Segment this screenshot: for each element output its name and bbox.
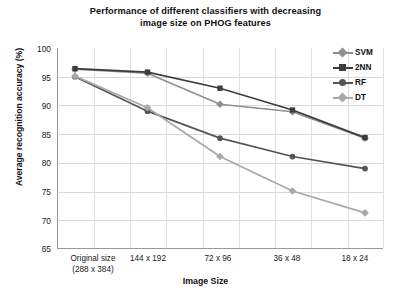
gridline-v-2 xyxy=(130,48,131,248)
legend-item-svm[interactable]: SVM xyxy=(333,45,395,60)
legend-label-svm: SVM xyxy=(355,48,373,57)
gridline-v-3 xyxy=(166,48,167,248)
gridline-v-6 xyxy=(275,48,276,248)
legend-item-2nn[interactable]: 2NN xyxy=(333,60,395,75)
x-tick-1: 144 x 192 xyxy=(110,254,186,265)
gridline-80 xyxy=(58,163,383,164)
gridline-75 xyxy=(58,192,383,193)
chart-title-line-1: Performance of different classifiers wit… xyxy=(0,5,411,17)
legend-marker-2nn-icon xyxy=(333,62,353,73)
y-tick-95: 95 xyxy=(21,73,51,83)
legend-item-dt[interactable]: DT xyxy=(333,90,395,105)
legend-marker-rf-icon xyxy=(333,77,353,88)
legend-marker-dt-icon xyxy=(333,92,353,103)
gridline-v-1 xyxy=(94,48,95,248)
x-tick-2: 72 x 96 xyxy=(180,254,256,265)
x-tick-0-line-2: (288 x 384) xyxy=(55,265,131,276)
gridline-v-5 xyxy=(239,48,240,248)
gridline-v-7 xyxy=(311,48,312,248)
x-tick-3: 36 x 48 xyxy=(249,254,325,265)
y-tick-90: 90 xyxy=(21,101,51,111)
legend-marker-svm-icon xyxy=(333,47,353,58)
gridline-85 xyxy=(58,134,383,135)
chart-container: Performance of different classifiers wit… xyxy=(0,0,411,305)
chart-title-line-2: image size on PHOG features xyxy=(0,17,411,29)
chart-title: Performance of different classifiers wit… xyxy=(0,5,411,29)
y-tick-80: 80 xyxy=(21,158,51,168)
y-tick-75: 75 xyxy=(21,187,51,197)
legend-label-2nn: 2NN xyxy=(355,63,371,72)
legend-label-dt: DT xyxy=(355,93,366,102)
gridline-v-4 xyxy=(203,48,204,248)
y-tick-65: 65 xyxy=(21,244,51,254)
chart-legend: SVM 2NN RF DT xyxy=(333,45,395,105)
y-tick-100: 100 xyxy=(21,44,51,54)
legend-item-rf[interactable]: RF xyxy=(333,75,395,90)
y-tick-70: 70 xyxy=(21,216,51,226)
gridline-90 xyxy=(58,105,383,106)
x-axis-label: Image Size xyxy=(0,276,411,286)
legend-label-rf: RF xyxy=(355,78,366,87)
y-tick-85: 85 xyxy=(21,130,51,140)
gridline-70 xyxy=(58,220,383,221)
x-tick-4: 18 x 24 xyxy=(317,254,393,265)
